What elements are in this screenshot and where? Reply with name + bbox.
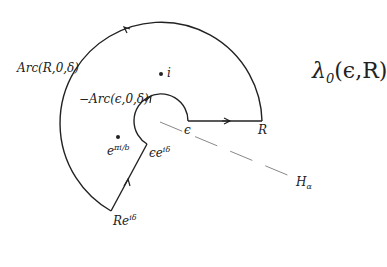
contour-title: λ0(ϵ,R) (312, 60, 387, 85)
halfline-label: Hα (296, 176, 312, 191)
arrow-right-icon (222, 118, 230, 124)
outer-arc (60, 22, 262, 211)
epsilon-label: ϵ (184, 124, 191, 136)
point-i-label: i (167, 67, 171, 79)
dashed-halfline (160, 122, 297, 179)
point-pole-dot (116, 135, 120, 139)
outer-arc-label: Arc(R,0,δ) (17, 62, 79, 74)
R-label: R (258, 124, 267, 136)
point-pole-label: eπi/b (107, 144, 130, 157)
point-i-dot (159, 72, 163, 76)
outer-end-label: Reiδ (113, 214, 137, 227)
inner-end-label: ϵeiδ (149, 146, 170, 159)
inner-arc-label: −Arc(ϵ,0,δ) (79, 93, 149, 105)
